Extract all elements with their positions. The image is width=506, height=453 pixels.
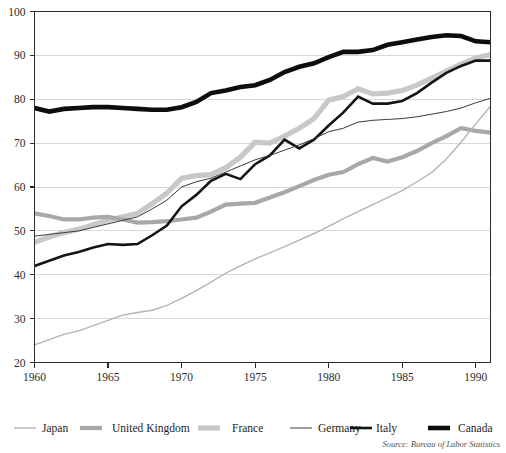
x-tick-label: 1975	[244, 371, 267, 383]
y-axis-ticks: 2030405060708090100	[8, 6, 34, 369]
y-tick-label: 90	[14, 49, 26, 61]
y-tick-label: 30	[14, 313, 26, 325]
legend-label-japan: Japan	[42, 422, 68, 435]
source-note: Source: Bureau of Labor Statistics	[383, 439, 501, 449]
x-axis-ticks: 1960196519701975198019851990	[23, 363, 488, 383]
y-tick-label: 20	[14, 357, 26, 369]
y-tick-label: 80	[14, 93, 26, 105]
series-group	[35, 35, 491, 345]
x-tick-label: 1970	[170, 371, 193, 383]
y-tick-label: 60	[14, 181, 26, 193]
series-line-canada	[35, 35, 491, 111]
legend-label-france: France	[232, 422, 263, 434]
x-tick-label: 1965	[97, 371, 120, 383]
y-tick-label: 40	[14, 269, 26, 281]
legend-label-canada: Canada	[458, 422, 492, 434]
y-tick-label: 70	[14, 137, 26, 149]
series-line-italy	[35, 61, 491, 266]
legend: JapanUnited KingdomFranceGermanyItalyCan…	[14, 422, 492, 435]
x-tick-label: 1990	[464, 371, 487, 383]
chart-container: 2030405060708090100 19601965197019751980…	[0, 0, 506, 453]
y-tick-label: 50	[14, 225, 26, 237]
legend-label-united-kingdom: United Kingdom	[112, 422, 190, 435]
x-tick-label: 1960	[23, 371, 46, 383]
line-chart-figure: 2030405060708090100 19601965197019751980…	[0, 0, 506, 453]
gridlines-group	[35, 55, 491, 318]
y-tick-label: 100	[8, 6, 26, 18]
legend-label-italy: Italy	[376, 422, 397, 435]
x-tick-label: 1980	[317, 371, 340, 383]
x-tick-label: 1985	[391, 371, 414, 383]
